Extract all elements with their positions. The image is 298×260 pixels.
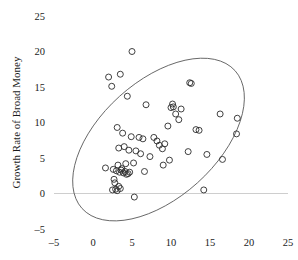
y-tick-label: 15 — [35, 82, 46, 93]
x-tick-label: 10 — [166, 237, 177, 248]
data-point — [109, 83, 115, 89]
data-point — [141, 168, 147, 174]
data-point — [128, 134, 134, 140]
x-tick-label: 0 — [90, 237, 95, 248]
data-point — [131, 160, 137, 166]
data-point — [114, 124, 120, 130]
x-tick-label: –5 — [48, 237, 60, 248]
data-point — [117, 71, 123, 77]
y-tick-label: 20 — [35, 46, 46, 57]
data-point — [219, 156, 225, 162]
data-point — [217, 111, 223, 117]
y-tick-label: –5 — [34, 224, 46, 235]
data-point — [112, 180, 118, 186]
y-tick-label: 5 — [40, 153, 45, 164]
data-point — [143, 102, 149, 108]
data-point — [201, 187, 207, 193]
y-axis-title: Growth Rate of Broad Money — [10, 56, 22, 188]
data-point — [138, 151, 144, 157]
y-tick-label: 0 — [40, 188, 45, 199]
data-point — [178, 106, 184, 112]
data-point — [160, 162, 166, 168]
scatter-chart-figure: Growth Rate of Broad Money–50510152025–5… — [0, 0, 298, 260]
data-point — [185, 149, 191, 155]
data-point — [102, 165, 108, 171]
x-tick-label: 15 — [205, 237, 216, 248]
data-point — [147, 154, 153, 160]
data-point — [106, 74, 112, 80]
data-point — [140, 136, 146, 142]
y-tick-label: 25 — [35, 11, 46, 22]
x-tick-label: 5 — [129, 237, 134, 248]
data-point — [126, 147, 132, 153]
data-point — [120, 130, 126, 136]
data-point — [129, 49, 135, 55]
data-point — [176, 117, 182, 123]
y-tick-label: 10 — [35, 117, 46, 128]
data-point — [234, 115, 240, 121]
x-tick-label: 20 — [244, 237, 255, 248]
concentration-ellipse — [43, 27, 274, 251]
data-point — [173, 111, 179, 117]
data-point — [131, 194, 137, 200]
chart-canvas: Growth Rate of Broad Money–50510152025–5… — [0, 0, 298, 260]
data-point — [124, 93, 130, 99]
data-point-group — [102, 49, 240, 201]
data-point — [136, 134, 142, 140]
data-point — [165, 123, 171, 129]
data-point — [166, 157, 172, 163]
x-tick-label: 25 — [283, 237, 294, 248]
data-point — [204, 151, 210, 157]
